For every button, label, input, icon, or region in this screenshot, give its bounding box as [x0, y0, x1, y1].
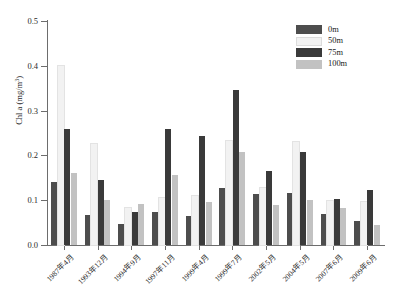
bar: [219, 188, 225, 245]
legend-item: 100m: [296, 59, 388, 71]
legend-item: 75m: [296, 47, 388, 59]
bar: [71, 173, 77, 245]
y-tick-label: 0.0: [12, 240, 38, 250]
chlorophyll-bar-chart: Chl a (mg/m3) 0.00.10.20.30.40.5 1987年4月…: [0, 0, 394, 302]
bar: [118, 224, 124, 245]
legend-item: 0m: [296, 24, 388, 36]
bar: [367, 190, 373, 245]
bar: [253, 194, 259, 245]
legend-item: 50m: [296, 36, 388, 48]
bar: [132, 212, 138, 245]
bar: [321, 214, 327, 245]
y-tick: [41, 245, 47, 246]
bar: [233, 90, 239, 245]
bar: [287, 193, 293, 245]
legend-label-50m: 50m: [328, 37, 343, 45]
legend-label-0m: 0m: [328, 26, 339, 34]
x-tick: [165, 245, 166, 250]
bar: [104, 200, 110, 245]
bar: [152, 212, 158, 245]
bar: [307, 200, 313, 245]
legend: 0m 50m 75m 100m: [296, 24, 388, 70]
bar: [327, 201, 333, 245]
bar: [138, 204, 144, 245]
bar: [64, 129, 70, 245]
y-tick-label: 0.1: [12, 195, 38, 205]
y-tick-label: 0.5: [12, 16, 38, 26]
bar: [98, 180, 104, 245]
bar: [374, 225, 380, 245]
x-tick: [98, 245, 99, 250]
bar: [186, 216, 192, 245]
bar: [300, 152, 306, 245]
y-axis-title-exponent: 3: [14, 79, 20, 82]
bar: [260, 188, 266, 245]
bar: [192, 196, 198, 245]
y-tick-label: 0.4: [12, 61, 38, 71]
bar: [125, 208, 131, 245]
bar: [239, 152, 245, 245]
bar: [273, 205, 279, 245]
y-axis-title-text: Chl a (mg/m: [14, 82, 24, 125]
bar: [172, 175, 178, 245]
bar: [206, 202, 212, 245]
x-tick: [131, 245, 132, 250]
bar: [159, 198, 165, 245]
bar: [226, 141, 232, 245]
y-tick-label: 0.2: [12, 150, 38, 160]
x-tick: [367, 245, 368, 250]
x-tick: [199, 245, 200, 250]
bar: [293, 142, 299, 245]
x-tick: [333, 245, 334, 250]
x-tick: [266, 245, 267, 250]
bar: [354, 221, 360, 245]
bar: [58, 66, 64, 245]
bar: [266, 171, 272, 245]
x-tick: [64, 245, 65, 250]
x-tick: [300, 245, 301, 250]
legend-label-75m: 75m: [328, 49, 343, 57]
bar: [51, 182, 57, 245]
legend-swatch-75m: [296, 48, 322, 57]
legend-swatch-100m: [296, 60, 322, 69]
bar: [165, 129, 171, 245]
y-tick-label: 0.3: [12, 106, 38, 116]
bar: [91, 144, 97, 245]
bar: [334, 199, 340, 245]
bar: [340, 208, 346, 245]
legend-swatch-0m: [296, 25, 322, 34]
y-axis-title-paren: ): [14, 76, 24, 79]
bar: [85, 215, 91, 245]
legend-swatch-50m: [296, 37, 322, 46]
bar: [361, 202, 367, 245]
legend-label-100m: 100m: [328, 60, 347, 68]
bar: [199, 136, 205, 245]
x-tick: [232, 245, 233, 250]
